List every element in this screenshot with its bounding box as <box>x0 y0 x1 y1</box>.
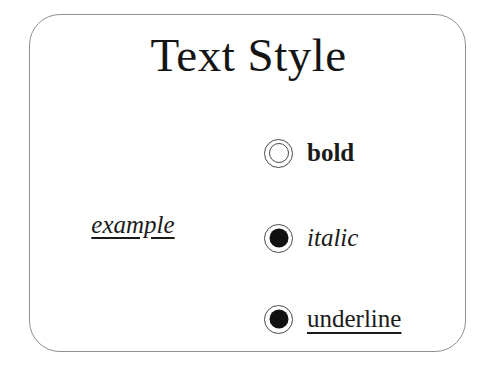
dialog-title: Text Style <box>30 31 467 80</box>
option-row-underline[interactable]: underline <box>264 304 401 334</box>
option-row-italic[interactable]: italic <box>264 223 358 253</box>
radio-button-bold[interactable] <box>264 139 293 168</box>
radio-indicator-italic <box>269 229 288 248</box>
text-style-dialog: Text Style example bold italic underline <box>29 14 466 352</box>
option-label-bold[interactable]: bold <box>307 139 354 167</box>
radio-button-italic[interactable] <box>264 224 293 253</box>
option-label-underline[interactable]: underline <box>307 305 401 333</box>
example-preview-text: example <box>68 211 198 240</box>
option-label-italic[interactable]: italic <box>307 224 358 252</box>
radio-indicator-bold <box>269 143 289 163</box>
radio-button-underline[interactable] <box>264 305 293 334</box>
radio-indicator-underline <box>269 310 288 329</box>
option-row-bold[interactable]: bold <box>264 138 354 168</box>
